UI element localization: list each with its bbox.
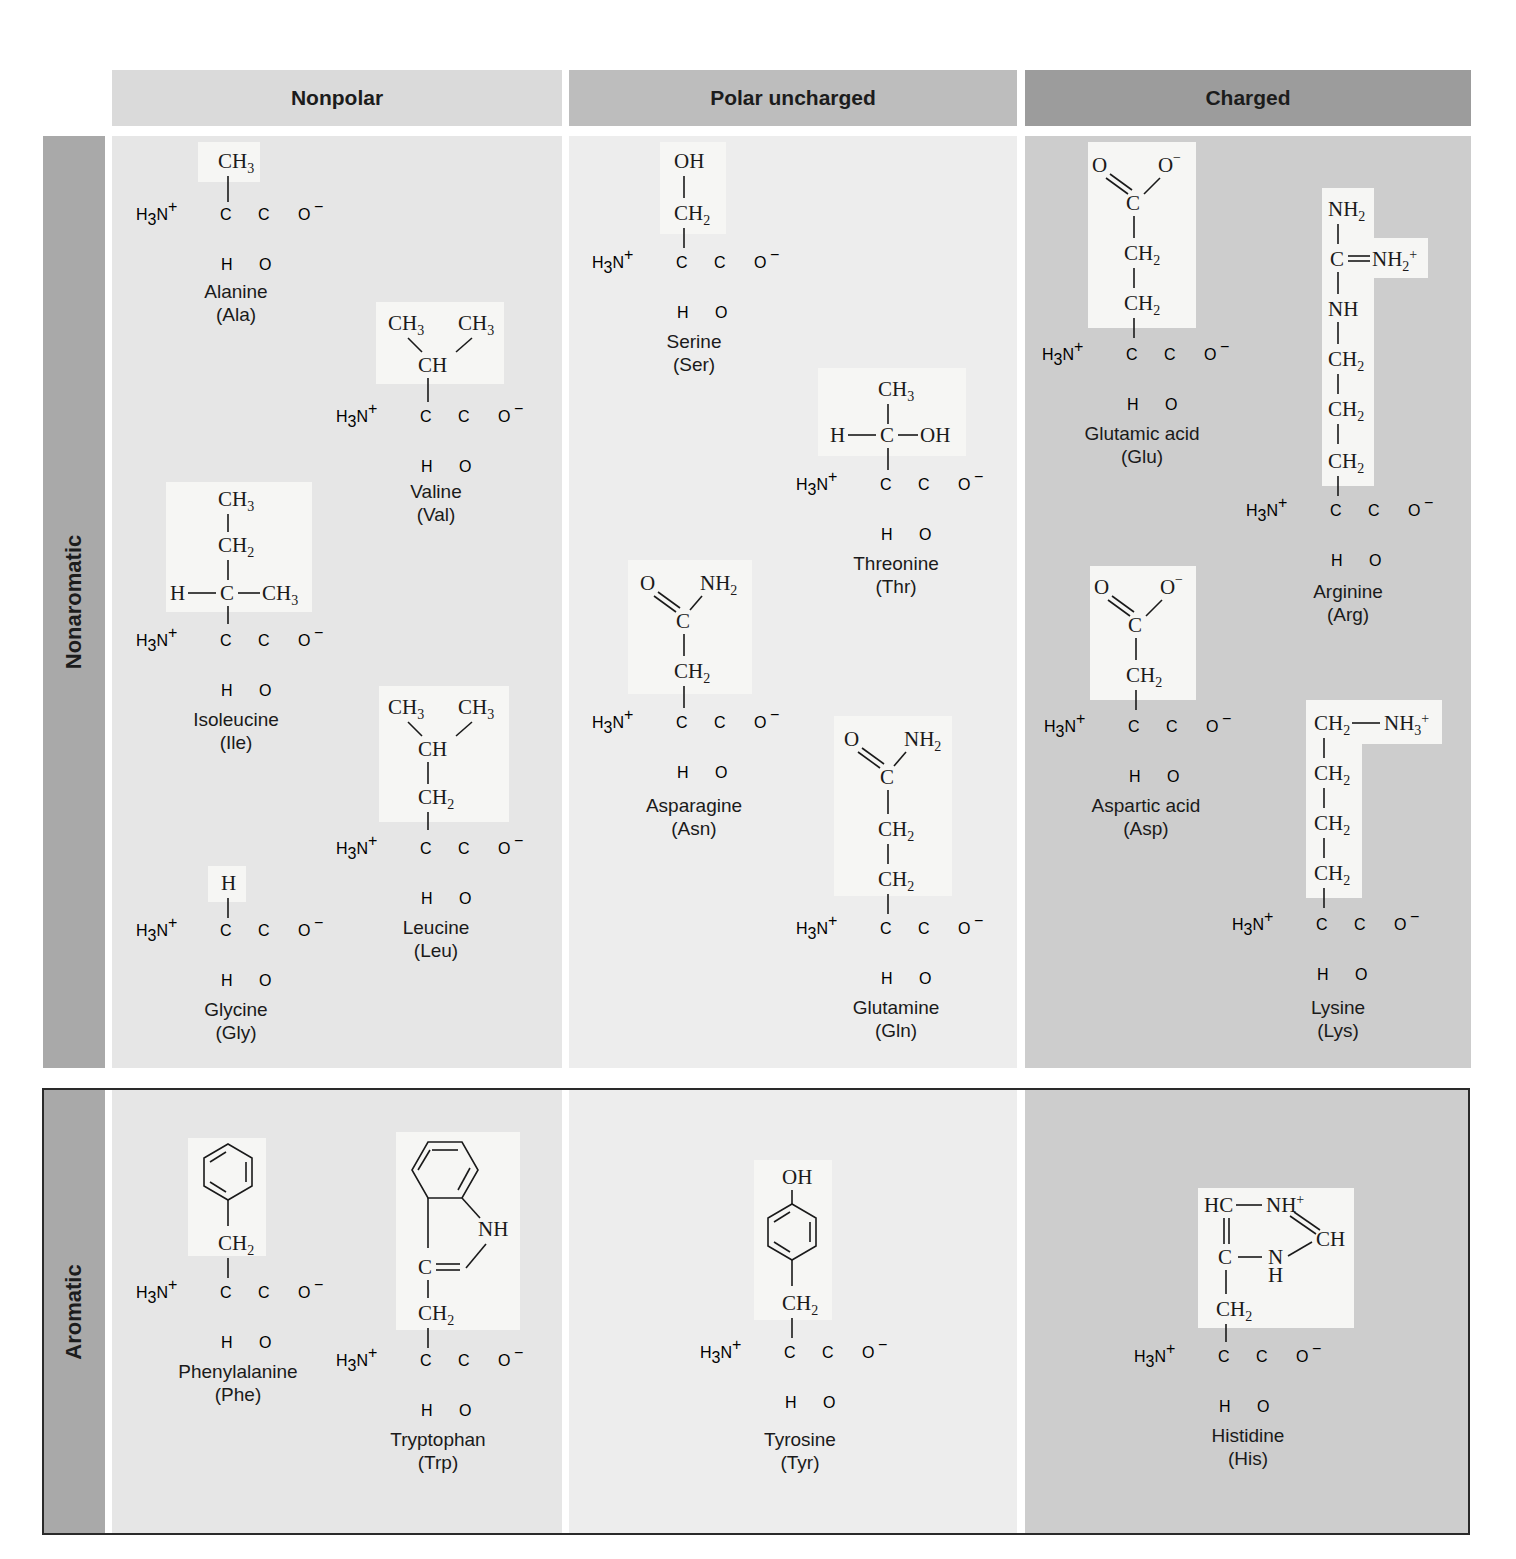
svg-text:CH: CH (418, 353, 447, 377)
svg-text:CH2: CH2 (1124, 241, 1160, 268)
svg-text:O: O (1158, 153, 1173, 177)
svg-text:C: C (880, 765, 894, 789)
svg-text:C: C (1128, 613, 1142, 637)
structure-glycine: H (136, 864, 356, 1004)
svg-text:CH3: CH3 (458, 695, 494, 722)
svg-text:H: H (170, 581, 185, 605)
svg-text:C: C (1218, 1245, 1232, 1269)
label-histidine: Histidine(His) (1148, 1424, 1348, 1470)
svg-text:CH2: CH2 (1314, 811, 1350, 838)
structure-tyrosine: OH CH2 (700, 1162, 920, 1422)
svg-text:OH: OH (782, 1165, 812, 1189)
svg-text:C: C (1126, 191, 1140, 215)
svg-text:OH: OH (674, 149, 704, 173)
structure-tryptophan: NH C CH2 (336, 1138, 556, 1428)
svg-text:CH2: CH2 (1314, 861, 1350, 888)
structure-threonine: CH3 H C OH (796, 370, 1016, 560)
svg-text:CH2: CH2 (218, 1231, 254, 1258)
structure-glutamic-acid: O O − C CH2 CH2 (1046, 146, 1266, 426)
label-lysine: Lysine(Lys) (1238, 996, 1438, 1042)
svg-text:O: O (844, 727, 859, 751)
structure-serine: OH CH2 (592, 142, 812, 332)
svg-text:H: H (830, 423, 845, 447)
svg-text:CH2: CH2 (418, 785, 454, 812)
svg-text:CH2: CH2 (1216, 1297, 1252, 1324)
svg-text:NH: NH (478, 1217, 508, 1241)
label-isoleucine: Isoleucine(Ile) (136, 708, 336, 754)
svg-text:C: C (880, 423, 894, 447)
label-aspartic-acid: Aspartic acid(Asp) (1046, 794, 1246, 840)
svg-text:−: − (1173, 150, 1181, 165)
svg-text:CH3: CH3 (388, 311, 424, 338)
column-header-charged: Charged (1025, 70, 1471, 126)
svg-text:NH+: NH+ (1266, 1192, 1304, 1217)
svg-text:O: O (1094, 575, 1109, 599)
svg-text:C: C (1330, 247, 1344, 271)
svg-text:CH: CH (418, 737, 447, 761)
structure-arginine: NH2 C NH2+ NH CH2 CH2 CH2 (1250, 190, 1470, 590)
svg-text:O: O (640, 571, 655, 595)
structure-isoleucine: CH3 CH2 H C CH3 (136, 480, 356, 710)
svg-text:H: H (1268, 1263, 1283, 1287)
label-phenylalanine: Phenylalanine(Phe) (138, 1360, 338, 1406)
label-serine: Serine(Ser) (594, 330, 794, 376)
column-header-nonpolar: Nonpolar (112, 70, 562, 126)
structure-phenylalanine: CH2 (136, 1140, 356, 1360)
svg-text:CH2: CH2 (674, 659, 710, 686)
svg-text:CH3: CH3 (458, 311, 494, 338)
label-arginine: Arginine(Arg) (1248, 580, 1448, 626)
label-tryptophan: Tryptophan(Trp) (338, 1428, 538, 1474)
column-header-polar-uncharged: Polar uncharged (569, 70, 1017, 126)
svg-text:NH2+: NH2+ (1372, 247, 1417, 274)
svg-text:NH3+: NH3+ (1384, 711, 1429, 738)
label-asparagine: Asparagine(Asn) (594, 794, 794, 840)
label-alanine: Alanine(Ala) (136, 280, 336, 326)
row-label-aromatic: Aromatic (61, 1264, 87, 1359)
label-leucine: Leucine(Leu) (336, 916, 536, 962)
column-label-charged: Charged (1205, 86, 1290, 110)
label-glutamine: Glutamine(Gln) (796, 996, 996, 1042)
svg-text:CH2: CH2 (1314, 711, 1350, 738)
svg-text:NH2: NH2 (1328, 197, 1365, 224)
svg-text:CH3: CH3 (262, 581, 298, 608)
svg-text:CH2: CH2 (1328, 397, 1364, 424)
column-label-nonpolar: Nonpolar (291, 86, 383, 110)
svg-text:O: O (1160, 575, 1175, 599)
svg-text:CH2: CH2 (218, 533, 254, 560)
svg-text:CH3: CH3 (218, 487, 254, 514)
svg-text:CH2: CH2 (1126, 663, 1162, 690)
structure-asparagine: O NH2 C CH2 (592, 562, 812, 782)
row-header-aromatic: Aromatic (43, 1090, 105, 1533)
svg-text:−: − (1175, 572, 1183, 587)
row-label-nonaromatic: Nonaromatic (61, 535, 87, 669)
svg-text:CH2: CH2 (418, 1301, 454, 1328)
label-tyrosine: Tyrosine(Tyr) (700, 1428, 900, 1474)
svg-text:NH2: NH2 (904, 727, 941, 754)
svg-text:CH3: CH3 (878, 377, 914, 404)
svg-text:CH2: CH2 (1314, 761, 1350, 788)
svg-text:C: C (220, 581, 234, 605)
svg-text:OH: OH (920, 423, 950, 447)
label-glycine: Glycine(Gly) (136, 998, 336, 1044)
svg-text:O: O (1092, 153, 1107, 177)
label-glutamic-acid: Glutamic acid(Glu) (1042, 422, 1242, 468)
svg-text:HC: HC (1204, 1193, 1233, 1217)
svg-text:CH2: CH2 (1124, 291, 1160, 318)
svg-text:CH3: CH3 (388, 695, 424, 722)
svg-text:CH3: CH3 (218, 149, 254, 176)
structure-leucine: CH3 CH3 CH CH2 (336, 684, 556, 914)
structure-alanine: CH3 (136, 140, 356, 280)
structure-lysine: CH2 NH3+ CH2 CH2 CH2 (1234, 702, 1474, 1002)
svg-text:CH: CH (1316, 1227, 1345, 1251)
structure-glutamine: O NH2 C CH2 CH2 (796, 718, 1016, 998)
svg-text:CH2: CH2 (878, 867, 914, 894)
svg-text:CH2: CH2 (1328, 347, 1364, 374)
structure-valine: CH3 CH3 CH (336, 300, 556, 480)
label-threonine: Threonine(Thr) (796, 552, 996, 598)
svg-text:CH2: CH2 (782, 1291, 818, 1318)
svg-text:CH2: CH2 (878, 817, 914, 844)
svg-text:CH2: CH2 (1328, 449, 1364, 476)
row-header-nonaromatic: Nonaromatic (43, 136, 105, 1068)
svg-text:NH2: NH2 (700, 571, 737, 598)
svg-text:NH: NH (1328, 297, 1358, 321)
